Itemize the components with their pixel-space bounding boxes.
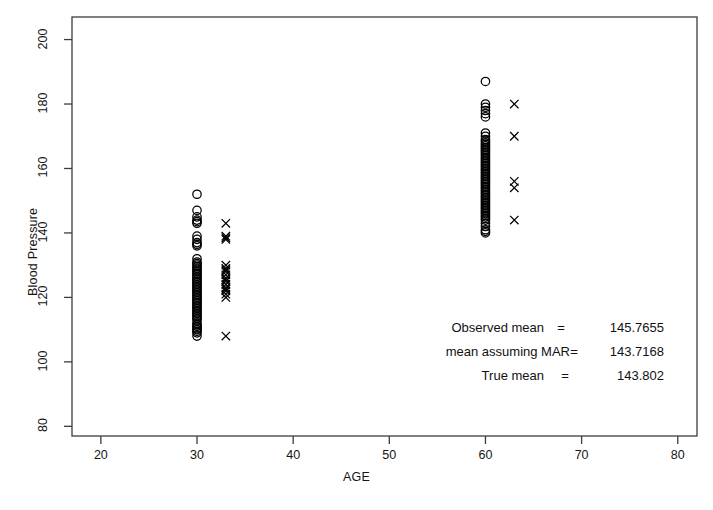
x-tick-label: 70 xyxy=(562,448,602,462)
annotation-equals-sign: = xyxy=(570,344,578,359)
statistics-annotation-block: Observed mean=145.7655mean assuming MAR=… xyxy=(392,320,682,392)
y-tick-label: 180 xyxy=(36,86,50,120)
y-tick-label: 100 xyxy=(36,344,50,378)
y-tick-label: 120 xyxy=(36,279,50,313)
x-tick-label: 50 xyxy=(369,448,409,462)
data-points xyxy=(193,77,519,340)
x-tick-label: 30 xyxy=(177,448,217,462)
annotation-row: mean assuming MAR=143.7168 xyxy=(392,344,682,368)
annotation-label: Observed mean xyxy=(392,320,544,335)
annotation-equals-sign: = xyxy=(544,368,586,383)
y-tick-label: 200 xyxy=(36,22,50,56)
annotation-equals-sign: = xyxy=(544,320,578,335)
x-axis-title: AGE xyxy=(0,470,713,484)
series-observed xyxy=(193,77,490,340)
data-point-cross xyxy=(510,184,518,192)
x-tick-label: 40 xyxy=(273,448,313,462)
annotation-row: True mean=143.802 xyxy=(392,368,682,392)
data-point-cross xyxy=(222,219,230,227)
annotation-value: 143.7168 xyxy=(578,344,664,359)
x-tick-label: 60 xyxy=(465,448,505,462)
data-point-cross xyxy=(222,266,230,274)
data-point-cross xyxy=(222,285,230,293)
data-point-cross xyxy=(222,234,230,242)
plot-canvas xyxy=(0,0,713,510)
y-tick-label: 80 xyxy=(36,408,50,442)
data-point-circle xyxy=(481,77,489,85)
annotation-label: True mean xyxy=(392,368,544,383)
x-tick-label: 20 xyxy=(81,448,121,462)
x-tick-label: 80 xyxy=(658,448,698,462)
annotation-value: 143.802 xyxy=(586,368,664,383)
annotation-label: mean assuming MAR xyxy=(392,344,570,359)
annotation-value: 145.7655 xyxy=(578,320,664,335)
y-tick-label: 160 xyxy=(36,150,50,184)
data-point-cross xyxy=(510,216,518,224)
data-point-cross xyxy=(222,275,230,283)
data-point-cross xyxy=(510,132,518,140)
data-point-cross xyxy=(510,100,518,108)
data-point-circle xyxy=(193,190,201,198)
scatter-plot-figure: Blood Pressure AGE 80100120140160180200 … xyxy=(0,0,713,510)
annotation-row: Observed mean=145.7655 xyxy=(392,320,682,344)
series-missing xyxy=(222,100,519,340)
data-point-cross xyxy=(222,332,230,340)
y-tick-label: 140 xyxy=(36,215,50,249)
